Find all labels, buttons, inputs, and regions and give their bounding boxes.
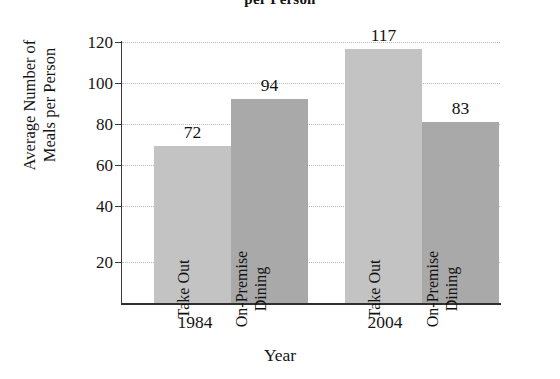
bar-label-line-1: Take Out xyxy=(174,260,193,319)
bar-value-1984-take-out: 72 xyxy=(134,123,251,141)
y-axis-tick-labels: 120 100 80 60 40 20 xyxy=(68,0,113,379)
bar-value-2004-take-out: 117 xyxy=(325,26,442,44)
gridline-120 xyxy=(122,42,500,43)
y-axis-title-line-1: Average Number of xyxy=(20,0,40,210)
x-tick-label-1984: 1984 xyxy=(155,312,235,332)
bar-2004-take-out: Take Out xyxy=(345,49,422,303)
bar-value-2004-on-premise-dining: 83 xyxy=(402,99,519,117)
y-tick-label-80: 80 xyxy=(73,116,113,133)
bar-label-line-2: Dining xyxy=(442,251,461,327)
bar-1984-take-out: Take Out xyxy=(154,146,231,303)
x-tick-label-2004: 2004 xyxy=(345,312,425,332)
y-axis-title-line-2: Meals per Person xyxy=(40,0,60,210)
bar-label-line-1: Take Out xyxy=(365,260,384,319)
y-tick-label-40: 40 xyxy=(73,198,113,215)
bar-2004-on-premise-dining: On-Premise Dining xyxy=(422,122,499,303)
x-axis-title: Year xyxy=(0,345,560,366)
y-tick-label-100: 100 xyxy=(73,75,113,92)
bar-label-1984-take-out: Take Out xyxy=(174,260,193,319)
chart-figure: per Person Average Number of Meals per P… xyxy=(0,0,560,379)
bar-label-line-1: On-Premise xyxy=(423,251,442,327)
bar-value-1984-on-premise-dining: 94 xyxy=(211,76,328,94)
bar-label-2004-take-out: Take Out xyxy=(365,260,384,319)
y-axis-title: Average Number of Meals per Person xyxy=(20,0,60,210)
bar-label-2004-on-premise-dining: On-Premise Dining xyxy=(423,251,461,327)
y-tick-label-120: 120 xyxy=(73,34,113,51)
y-tick-label-20: 20 xyxy=(73,254,113,271)
bar-label-1984-on-premise-dining: On-Premise Dining xyxy=(232,251,270,327)
y-tick-label-60: 60 xyxy=(73,157,113,174)
bar-label-line-2: Dining xyxy=(251,251,270,327)
